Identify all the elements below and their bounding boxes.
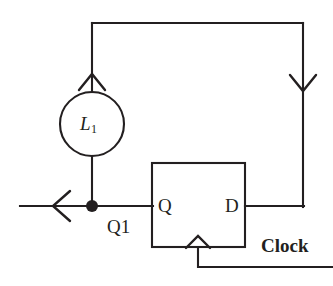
inductor-label-letter: L bbox=[80, 113, 91, 134]
pin-label-d: D bbox=[225, 196, 239, 215]
pin-label-q: Q bbox=[158, 196, 172, 215]
clock-label: Clock bbox=[261, 236, 309, 255]
inductor-label: L1 bbox=[80, 114, 97, 135]
net-label-q1: Q1 bbox=[107, 217, 130, 236]
inductor-label-subscript: 1 bbox=[91, 122, 97, 136]
node-q1-junction-dot bbox=[86, 200, 98, 212]
circuit-diagram: L1 Q D Q1 Clock bbox=[0, 0, 333, 286]
